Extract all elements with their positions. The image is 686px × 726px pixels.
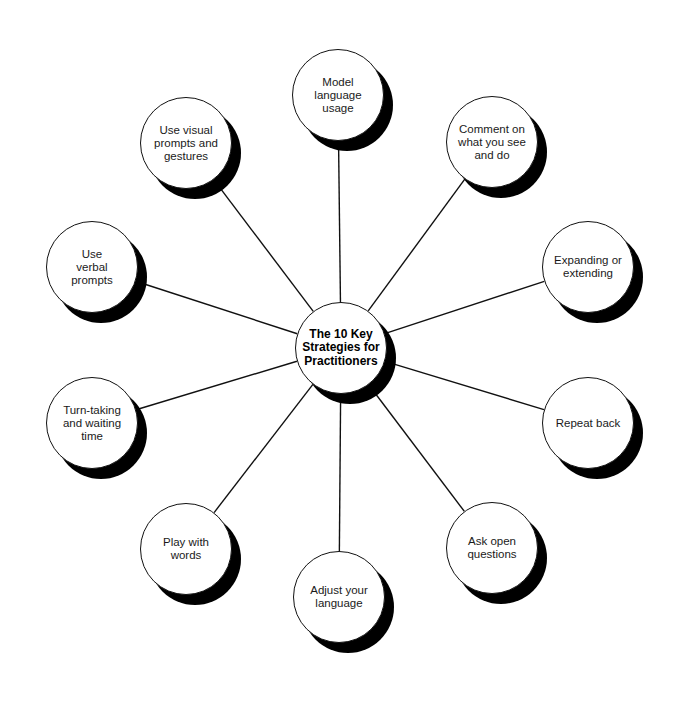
connector-line	[368, 179, 465, 311]
node-comment-on-what-you-see: Comment on what you see and do	[446, 96, 538, 188]
node-label: Model language usage	[308, 76, 367, 115]
node-disc: Repeat back	[542, 377, 634, 469]
node-use-verbal-prompts: Use verbal prompts	[46, 221, 138, 313]
connector-line	[385, 361, 544, 409]
hub-node: The 10 Key Strategies for Practitioners	[295, 302, 387, 394]
connector-line	[339, 141, 341, 302]
node-disc: Use visual prompts and gestures	[140, 97, 232, 189]
node-disc: Turn-taking and waiting time	[46, 377, 138, 469]
node-disc: Adjust your language	[293, 551, 385, 643]
node-label: Play with words	[157, 536, 215, 562]
node-disc: Expanding or extending	[542, 221, 634, 313]
node-adjust-your-language: Adjust your language	[293, 551, 385, 643]
node-repeat-back: Repeat back	[542, 377, 634, 469]
node-disc: Model language usage	[292, 49, 384, 141]
node-disc: Comment on what you see and do	[446, 96, 538, 188]
node-disc: Use verbal prompts	[46, 221, 138, 313]
node-disc: Ask open questions	[446, 502, 538, 594]
node-label: Use visual prompts and gestures	[148, 124, 224, 163]
connector-line	[136, 361, 297, 409]
connector-line	[214, 180, 314, 312]
connector-line	[339, 394, 340, 551]
node-label: Ask open questions	[461, 535, 522, 561]
node-label: Adjust your language	[304, 584, 374, 610]
connector-line	[136, 281, 298, 334]
node-turn-taking-and-waiting-time: Turn-taking and waiting time	[46, 377, 138, 469]
strategies-diagram: The 10 Key Strategies for Practitioners …	[0, 0, 686, 726]
node-play-with-words: Play with words	[140, 503, 232, 595]
hub-label: The 10 Key Strategies for Practitioners	[296, 328, 385, 369]
node-ask-open-questions: Ask open questions	[446, 502, 538, 594]
node-label: Expanding or extending	[548, 254, 628, 280]
node-label: Turn-taking and waiting time	[57, 404, 127, 443]
connector-line	[385, 281, 545, 333]
node-label: Repeat back	[550, 417, 627, 430]
node-use-visual-prompts-and-gestures: Use visual prompts and gestures	[140, 97, 232, 189]
node-disc: Play with words	[140, 503, 232, 595]
node-expanding-or-extending: Expanding or extending	[542, 221, 634, 313]
connector-line	[214, 384, 313, 512]
connector-line	[369, 385, 465, 512]
hub-disc: The 10 Key Strategies for Practitioners	[295, 302, 387, 394]
node-label: Use verbal prompts	[65, 248, 119, 287]
node-label: Comment on what you see and do	[452, 123, 532, 162]
node-model-language-usage: Model language usage	[292, 49, 384, 141]
